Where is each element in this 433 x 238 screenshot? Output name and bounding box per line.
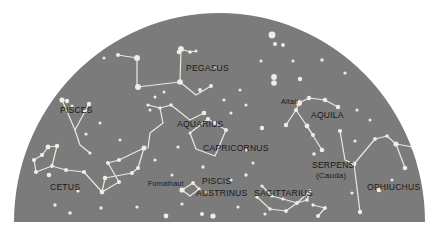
star-marker xyxy=(68,211,72,215)
star-marker xyxy=(135,205,138,208)
star-marker xyxy=(260,126,264,130)
star-marker xyxy=(323,206,327,210)
star-marker xyxy=(385,134,388,137)
star-marker xyxy=(201,165,204,168)
star-marker xyxy=(119,139,122,142)
star-marker xyxy=(103,57,106,60)
star-marker xyxy=(149,109,152,112)
star-marker xyxy=(260,60,263,63)
star-marker xyxy=(305,198,309,202)
star-marker xyxy=(179,187,184,192)
star-marker xyxy=(284,123,288,127)
star-marker xyxy=(224,128,228,132)
star-marker xyxy=(154,96,157,99)
star-marker xyxy=(292,60,295,63)
star-marker xyxy=(32,158,36,162)
star-marker xyxy=(323,98,327,102)
star-marker xyxy=(88,151,91,154)
star-marker xyxy=(373,137,377,141)
constellation-label-pisces: PISCES xyxy=(60,105,93,115)
constellation-label-piscis: PISCIS xyxy=(202,176,231,186)
star-marker xyxy=(153,158,156,161)
star-marker xyxy=(311,203,314,206)
star-marker xyxy=(336,105,340,109)
star-marker xyxy=(350,191,353,194)
star-marker xyxy=(59,97,64,102)
star-label-altair: Altair xyxy=(281,97,299,106)
star-marker xyxy=(273,42,277,46)
star-marker xyxy=(146,103,149,106)
constellation-label-ophiuchus: OPHIUCHUS xyxy=(367,182,420,192)
star-marker xyxy=(271,74,277,80)
star-marker xyxy=(136,166,140,170)
star-marker xyxy=(195,50,198,53)
constellation-label-serpens: SERPENS xyxy=(312,160,355,170)
star-marker xyxy=(338,129,342,133)
constellation-label-sagittarius: SAGITTARIUS xyxy=(254,188,313,198)
constellation-label-aquila: AQUILA xyxy=(311,110,344,120)
star-marker xyxy=(239,89,242,92)
star-marker xyxy=(252,162,255,165)
star-marker xyxy=(34,170,38,174)
star-marker xyxy=(268,207,271,210)
star-marker xyxy=(355,108,358,111)
star-marker xyxy=(135,84,141,90)
star-marker xyxy=(142,146,147,151)
star-marker xyxy=(65,99,69,103)
constellation-label-capricornus: CAPRICORNUS xyxy=(203,143,269,153)
star-marker xyxy=(316,214,320,218)
star-marker xyxy=(403,166,408,171)
star-marker xyxy=(210,213,215,218)
star-marker xyxy=(103,176,107,180)
star-marker xyxy=(244,173,247,176)
star-marker xyxy=(202,111,207,116)
constellation-label-aquarius: AQUARIUS xyxy=(177,119,224,129)
star-marker xyxy=(230,112,233,115)
star-marker xyxy=(64,168,68,172)
star-marker xyxy=(358,210,362,214)
constellation-label-cauda: (Cauda) xyxy=(316,171,346,180)
star-marker xyxy=(164,214,169,219)
star-marker xyxy=(200,212,204,216)
star-marker xyxy=(130,171,134,175)
star-marker xyxy=(180,202,183,205)
star-marker xyxy=(284,209,288,213)
constellation-label-pegasus: PEGASUS xyxy=(186,63,229,73)
star-marker xyxy=(47,173,52,178)
star-marker xyxy=(295,201,299,205)
star-marker xyxy=(158,106,161,109)
star-marker xyxy=(188,50,192,54)
constellation-label-cetus: CETUS xyxy=(50,182,80,192)
star-marker xyxy=(99,122,102,125)
star-marker xyxy=(294,108,298,112)
star-label-fomalhaut: Fomalhaut xyxy=(148,179,184,188)
star-marker xyxy=(191,181,195,185)
star-chart-figure: PEGASUSPISCESCETUSAQUARIUSCAPRICORNUSPIS… xyxy=(0,0,433,238)
star-marker xyxy=(189,132,192,135)
star-marker xyxy=(353,139,356,142)
star-marker xyxy=(50,164,54,168)
sky-dome-canvas: PEGASUSPISCESCETUSAQUARIUSCAPRICORNUSPIS… xyxy=(0,0,433,238)
star-marker xyxy=(82,170,86,174)
star-marker xyxy=(171,174,174,177)
star-marker xyxy=(305,124,310,129)
star-marker xyxy=(117,158,121,162)
star-marker xyxy=(245,104,248,107)
star-marker xyxy=(100,190,105,195)
star-marker xyxy=(116,53,120,57)
star-marker xyxy=(178,46,184,52)
star-marker xyxy=(393,141,398,146)
star-marker xyxy=(46,145,51,150)
star-marker xyxy=(176,145,179,148)
star-marker xyxy=(198,88,202,92)
star-marker xyxy=(312,152,316,156)
star-marker xyxy=(53,203,56,206)
star-marker xyxy=(177,79,183,85)
star-marker xyxy=(106,161,110,165)
constellation-label-austrinus: AUSTRINUS xyxy=(196,188,248,198)
star-marker xyxy=(236,205,239,208)
star-marker xyxy=(271,80,277,86)
star-marker xyxy=(311,133,315,137)
star-marker xyxy=(320,58,323,61)
star-marker xyxy=(209,84,213,88)
